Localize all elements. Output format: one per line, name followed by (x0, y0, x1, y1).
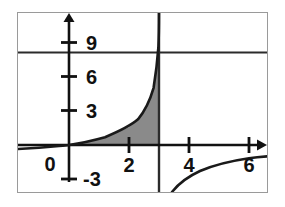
y-tick-label-minus-3: -3 (83, 168, 101, 190)
x-tick-label-4: 4 (183, 154, 195, 176)
x-tick-label-6: 6 (243, 154, 254, 176)
x-axis-arrow-icon (257, 140, 267, 151)
x-tick-label-0: 0 (44, 153, 55, 175)
x-tick-label-2: 2 (123, 154, 134, 176)
shaded-area-under-curve (69, 25, 159, 145)
y-axis-arrow-icon (64, 13, 75, 22)
plot-frame: 0 2 4 6 9 6 3 -3 (17, 12, 268, 193)
coordinate-plane: 0 2 4 6 9 6 3 -3 (18, 13, 267, 192)
y-tick-label-9: 9 (86, 32, 97, 54)
y-tick-label-6: 6 (86, 66, 97, 88)
y-tick-label-3: 3 (86, 100, 97, 122)
graph-figure: 0 2 4 6 9 6 3 -3 (0, 0, 285, 207)
